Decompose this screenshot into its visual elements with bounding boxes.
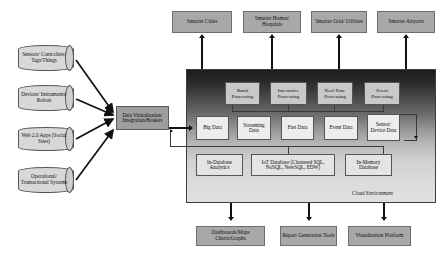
- source-label: Sensors/ Controllers/ Tags/Things: [19, 52, 73, 63]
- source-label: Web 2.0 Apps (Social Sites): [19, 133, 73, 144]
- source-label: Operational/ Transactional Systems: [19, 174, 73, 185]
- source-connector-arrows: [0, 0, 444, 257]
- source-label: Devices/ Instruments/ Robots: [19, 92, 73, 103]
- diagram-canvas: Smarter Cities Smarter Homes/ Hospitals …: [0, 0, 444, 257]
